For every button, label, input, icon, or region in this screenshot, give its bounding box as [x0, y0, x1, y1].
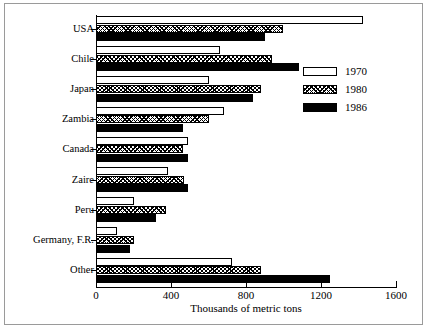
category-label-7: Germany, F.R.: [33, 234, 94, 245]
bar-germany-f-r-1970: [96, 227, 117, 235]
bar-zaire-1970: [96, 167, 168, 175]
category-label-0: USA: [73, 23, 94, 34]
bar-chile-1970: [96, 46, 220, 54]
x-tick-label-0: 0: [74, 289, 118, 301]
category-label-3: Zambia: [62, 113, 94, 124]
x-axis-label: Thousands of metric tons: [96, 302, 396, 314]
category-label-2: Japan: [70, 83, 94, 94]
category-label-1: Chile: [71, 53, 94, 64]
x-tick-label-1: 400: [149, 289, 193, 301]
legend-swatch-1980: [303, 85, 337, 94]
x-tick-4: [396, 281, 397, 288]
x-tick-2: [246, 281, 247, 288]
category-label-5: Zaire: [72, 174, 94, 185]
bar-germany-f-r-1986: [96, 245, 130, 253]
bar-usa-1970: [96, 16, 363, 24]
legend-item-1986: 1986: [303, 98, 367, 116]
legend-swatch-1970: [303, 67, 337, 76]
legend-swatch-1986: [303, 103, 337, 112]
bar-chile-1986: [96, 63, 299, 71]
legend-label-1980: 1980: [345, 83, 367, 95]
legend-label-1970: 1970: [345, 65, 367, 77]
legend-item-1980: 1980: [303, 80, 367, 98]
bar-other-1980: [96, 266, 261, 274]
bar-zambia-1980: [96, 115, 209, 123]
legend-label-1986: 1986: [345, 101, 367, 113]
bar-canada-1970: [96, 137, 188, 145]
bar-zambia-1986: [96, 124, 183, 132]
bar-chart: USAChileJapanZambiaCanadaZairePeruGerman…: [0, 0, 429, 331]
bar-peru-1980: [96, 206, 166, 214]
category-label-8: Other: [70, 264, 94, 275]
category-label-6: Peru: [75, 204, 94, 215]
x-tick-3: [321, 281, 322, 288]
bar-peru-1986: [96, 214, 156, 222]
bar-usa-1986: [96, 33, 265, 41]
bar-japan-1986: [96, 94, 253, 102]
bar-peru-1970: [96, 197, 134, 205]
x-tick-label-3: 1200: [299, 289, 343, 301]
bar-other-1970: [96, 258, 232, 266]
bar-zaire-1980: [96, 176, 184, 184]
legend: 197019801986: [303, 62, 367, 116]
category-label-4: Canada: [63, 143, 95, 154]
bar-chile-1980: [96, 55, 272, 63]
bar-germany-f-r-1980: [96, 236, 134, 244]
bar-zambia-1970: [96, 107, 224, 115]
bar-japan-1980: [96, 85, 261, 93]
legend-item-1970: 1970: [303, 62, 367, 80]
bar-canada-1986: [96, 154, 188, 162]
x-tick-0: [96, 281, 97, 288]
x-tick-label-2: 800: [224, 289, 268, 301]
x-tick-label-4: 1600: [374, 289, 418, 301]
bar-canada-1980: [96, 145, 183, 153]
bar-zaire-1986: [96, 184, 188, 192]
bar-other-1986: [96, 275, 330, 283]
x-tick-1: [171, 281, 172, 288]
bar-usa-1980: [96, 25, 283, 33]
bar-japan-1970: [96, 76, 209, 84]
